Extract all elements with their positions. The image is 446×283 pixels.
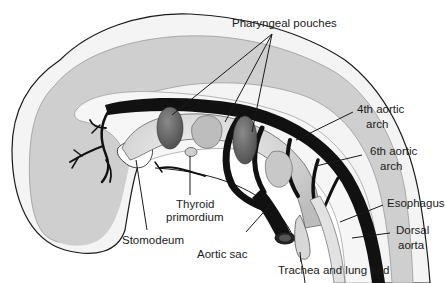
label-4th-aortic-arch-line2: arch [366,118,388,130]
label-thyroid-line2: primordium [166,211,224,223]
label-4th-aortic-arch-line1: 4th aortic [357,103,405,115]
label-dorsal-aorta-line2: aorta [398,239,425,251]
label-6th-aortic-arch-line2: arch [380,160,402,172]
label-trachea-lung-bud: Trachea and lung bud [278,264,389,276]
label-stomodeum: Stomodeum [122,234,184,246]
pharyngeal-pouch-1 [157,107,183,149]
label-6th-aortic-arch-line1: 6th aortic [370,145,418,157]
embryo-pharyngeal-diagram: Pharyngeal pouches 4th aortic arch 6th a… [0,0,446,283]
label-thyroid-line1: Thyroid [176,198,214,210]
label-esophagus: Esophagus [387,197,445,209]
label-pharyngeal-pouches: Pharyngeal pouches [232,17,337,29]
pharyngeal-pouch-4 [265,151,292,187]
thyroid-primordium [185,148,197,157]
pharyngeal-pouch-2 [192,116,222,149]
label-aortic-sac: Aortic sac [197,248,248,260]
label-dorsal-aorta-line1: Dorsal [396,224,429,236]
